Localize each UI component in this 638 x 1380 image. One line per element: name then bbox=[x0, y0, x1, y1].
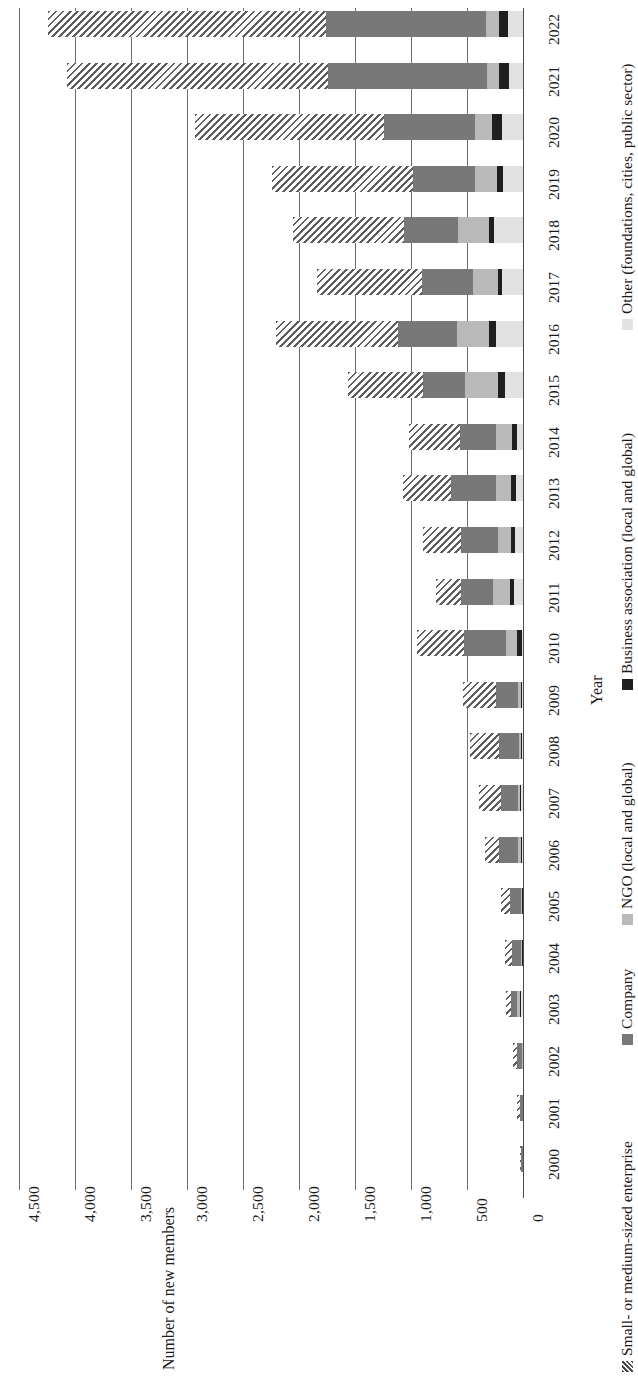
legend-label: Company bbox=[618, 969, 635, 1029]
value-tick-4000: 4,000 bbox=[81, 1186, 99, 1222]
bar-segment-ngo bbox=[522, 1043, 523, 1069]
bar-segment-other bbox=[522, 940, 523, 966]
legend-item-ngo[interactable]: NGO (local and global) bbox=[618, 762, 636, 925]
bar-2009 bbox=[0, 682, 523, 708]
legend-item-company[interactable]: Company bbox=[618, 969, 636, 1045]
bar-segment-company bbox=[517, 1043, 522, 1069]
bar-segment-sme bbox=[520, 1146, 521, 1172]
bar-segment-other bbox=[522, 837, 523, 863]
bar-segment-ba bbox=[489, 321, 496, 347]
bar-segment-sme bbox=[403, 475, 451, 501]
bar-segment-company bbox=[499, 837, 518, 863]
bar-segment-sme bbox=[293, 217, 404, 243]
legend-item-ba[interactable]: Business association (local and global) bbox=[618, 433, 636, 690]
bar-segment-company bbox=[422, 269, 473, 295]
bar-segment-sme bbox=[501, 888, 510, 914]
bar-segment-ba bbox=[517, 630, 523, 656]
bar-segment-ba bbox=[489, 217, 494, 243]
bar-segment-other bbox=[522, 888, 523, 914]
bar-segment-sme bbox=[67, 63, 328, 89]
year-label-2005: 2005 bbox=[545, 891, 563, 922]
bar-2003 bbox=[0, 991, 523, 1017]
bar-segment-other bbox=[517, 424, 523, 450]
bar-segment-sme bbox=[276, 321, 398, 347]
bar-segment-ngo bbox=[518, 837, 521, 863]
bar-segment-other bbox=[494, 217, 523, 243]
bar-segment-ba bbox=[511, 527, 515, 553]
bar-segment-ba bbox=[499, 11, 508, 37]
bar-2019 bbox=[0, 166, 523, 192]
bar-segment-company bbox=[464, 630, 506, 656]
bar-2007 bbox=[0, 785, 523, 811]
legend-swatch-ba bbox=[622, 679, 633, 690]
bar-segment-sme bbox=[470, 733, 499, 759]
bar-segment-ngo bbox=[518, 682, 521, 708]
year-label-2010: 2010 bbox=[545, 633, 563, 664]
bar-segment-ngo bbox=[519, 733, 521, 759]
bar-segment-ngo bbox=[521, 940, 522, 966]
year-label-2004: 2004 bbox=[545, 943, 563, 974]
value-tick-1000: 1,000 bbox=[417, 1186, 435, 1222]
bar-segment-ngo bbox=[486, 11, 499, 37]
bar-segment-ngo bbox=[496, 424, 512, 450]
legend-swatch-ngo bbox=[622, 914, 633, 925]
bar-2002 bbox=[0, 1043, 523, 1069]
bar-segment-company bbox=[404, 217, 458, 243]
bar-segment-other bbox=[496, 321, 523, 347]
bar-segment-sme bbox=[272, 166, 413, 192]
legend-item-sme[interactable]: Small- or medium-sized enterprise bbox=[618, 1141, 636, 1372]
bar-segment-sme bbox=[195, 114, 383, 140]
bar-segment-other bbox=[503, 166, 523, 192]
bar-segment-ba bbox=[512, 424, 517, 450]
bar-segment-company bbox=[461, 579, 493, 605]
legend-label: Other (foundations, cities, public secto… bbox=[618, 63, 635, 314]
chart-figure: 05001,0001,5002,0002,5003,0003,5004,0004… bbox=[0, 0, 638, 1380]
value-tick-3000: 3,000 bbox=[193, 1186, 211, 1222]
bar-2008 bbox=[0, 733, 523, 759]
year-label-2016: 2016 bbox=[545, 324, 563, 355]
year-label-2020: 2020 bbox=[545, 117, 563, 148]
year-label-2000: 2000 bbox=[545, 1149, 563, 1180]
bar-2016 bbox=[0, 321, 523, 347]
year-label-2018: 2018 bbox=[545, 220, 563, 251]
bar-segment-ba bbox=[511, 475, 516, 501]
legend-item-other[interactable]: Other (foundations, cities, public secto… bbox=[618, 63, 636, 330]
value-tick-2000: 2,000 bbox=[305, 1186, 323, 1222]
year-label-2021: 2021 bbox=[545, 66, 563, 97]
value-tick-3500: 3,500 bbox=[137, 1186, 155, 1222]
bar-segment-ngo bbox=[521, 888, 522, 914]
bar-segment-sme bbox=[485, 837, 498, 863]
bar-2015 bbox=[0, 372, 523, 398]
year-label-2019: 2019 bbox=[545, 169, 563, 200]
year-label-2015: 2015 bbox=[545, 375, 563, 406]
bar-segment-sme bbox=[423, 527, 461, 553]
bar-segment-sme bbox=[505, 940, 512, 966]
bar-segment-company bbox=[413, 166, 475, 192]
bar-segment-other bbox=[502, 114, 523, 140]
bar-segment-company bbox=[510, 888, 521, 914]
year-label-2014: 2014 bbox=[545, 427, 563, 458]
bar-segment-sme bbox=[513, 1043, 517, 1069]
legend-swatch-company bbox=[622, 1034, 633, 1045]
bar-segment-other bbox=[522, 733, 523, 759]
bar-segment-company bbox=[511, 991, 517, 1017]
bar-2021 bbox=[0, 63, 523, 89]
bar-segment-other bbox=[520, 991, 523, 1017]
bar-segment-ba bbox=[522, 940, 523, 966]
bar-segment-company bbox=[328, 63, 487, 89]
bar-segment-company bbox=[496, 682, 518, 708]
bar-segment-ba bbox=[520, 785, 521, 811]
value-tick-2500: 2,500 bbox=[249, 1186, 267, 1222]
bar-segment-ngo bbox=[506, 630, 517, 656]
bar-segment-other bbox=[516, 475, 523, 501]
year-label-2002: 2002 bbox=[545, 1046, 563, 1077]
bar-segment-ngo bbox=[518, 785, 520, 811]
bar-segment-other bbox=[521, 785, 523, 811]
year-label-2003: 2003 bbox=[545, 994, 563, 1025]
bar-segment-ngo bbox=[475, 166, 497, 192]
value-axis-title: Number of new members bbox=[160, 1207, 178, 1370]
value-axis-line bbox=[523, 8, 524, 1198]
value-tick-1500: 1,500 bbox=[361, 1186, 379, 1222]
bar-2017 bbox=[0, 269, 523, 295]
bar-segment-other bbox=[514, 579, 523, 605]
